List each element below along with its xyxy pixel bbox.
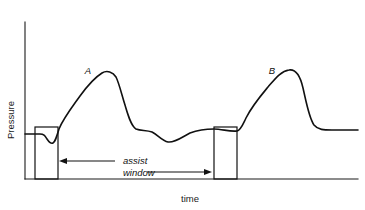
assist-window-arrow-right-head bbox=[204, 169, 212, 175]
peak-b-label: B bbox=[269, 65, 276, 76]
assist-window-label-line2: window bbox=[123, 167, 156, 178]
pressure-time-figure: Pressure time A B assist window bbox=[0, 0, 365, 210]
pressure-waveform-path bbox=[25, 70, 358, 143]
pressure-trace-group bbox=[25, 70, 358, 143]
x-axis-label: time bbox=[181, 193, 199, 204]
axes-group bbox=[25, 22, 358, 179]
assist-window-label-line1: assist bbox=[123, 155, 148, 166]
y-axis-label: Pressure bbox=[5, 101, 16, 139]
labels-group: Pressure time A B assist window bbox=[5, 65, 276, 204]
assist-window-rect-2 bbox=[214, 127, 237, 179]
peak-a-label: A bbox=[84, 65, 91, 76]
chart-canvas: Pressure time A B assist window bbox=[0, 0, 365, 210]
assist-window-arrow-left-head bbox=[59, 158, 67, 164]
